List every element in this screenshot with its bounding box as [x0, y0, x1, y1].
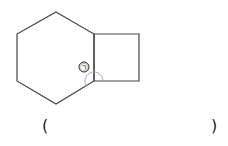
square — [94, 34, 139, 81]
angle-label: ㉠ — [80, 63, 88, 72]
answer-open-paren: ( — [42, 116, 48, 135]
answer-blank[interactable] — [55, 116, 205, 136]
answer-close-paren: ) — [211, 116, 217, 135]
hexagon — [17, 12, 94, 104]
